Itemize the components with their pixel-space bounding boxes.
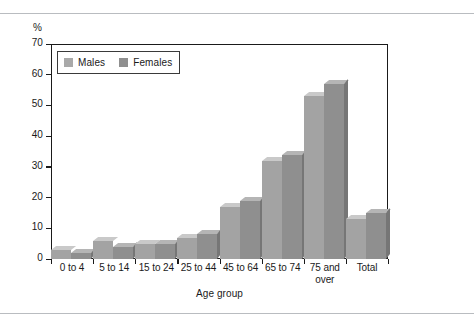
y-axis-tick-label: 20 xyxy=(13,191,43,202)
y-axis-tick-label: 10 xyxy=(13,221,43,232)
bar-body xyxy=(93,241,113,259)
bar-females xyxy=(282,155,302,259)
bar-males xyxy=(304,96,324,259)
y-axis-tick-label: 50 xyxy=(13,98,43,109)
bar-top-face xyxy=(93,237,118,241)
y-axis-unit-label: % xyxy=(33,22,42,33)
bar-males xyxy=(51,250,71,259)
x-axis-title: Age group xyxy=(51,288,388,299)
legend-swatch-males-icon xyxy=(64,58,73,67)
bar-males xyxy=(177,238,197,260)
bars-area xyxy=(51,44,388,259)
y-axis-tick-label: 40 xyxy=(13,129,43,140)
bar-group xyxy=(220,44,260,259)
legend-item-males: Males xyxy=(64,57,105,68)
y-axis-tick-label: 60 xyxy=(13,68,43,79)
bar-body xyxy=(240,201,260,259)
bar-males xyxy=(262,161,282,259)
bar-group xyxy=(262,44,302,259)
bar-females xyxy=(240,201,260,259)
chart-legend: Males Females xyxy=(57,51,180,74)
y-axis-tick-label: 0 xyxy=(13,252,43,263)
bar-males xyxy=(93,241,113,259)
legend-swatch-females-icon xyxy=(119,58,128,67)
legend-label-males: Males xyxy=(78,57,105,68)
bar-body xyxy=(220,207,240,259)
bar-body xyxy=(135,244,155,259)
bar-body xyxy=(71,253,91,259)
bar-females xyxy=(155,244,175,259)
bar-body xyxy=(304,96,324,259)
bar-body xyxy=(197,234,217,259)
bar-body xyxy=(366,213,386,259)
bar-body xyxy=(346,219,366,259)
bar-females xyxy=(71,253,91,259)
bar-group xyxy=(177,44,217,259)
y-axis-tick-label: 70 xyxy=(13,37,43,48)
bar-body xyxy=(282,155,302,259)
bar-body xyxy=(177,238,197,260)
bar-top-face xyxy=(51,246,76,250)
bar-body xyxy=(262,161,282,259)
bar-group xyxy=(93,44,133,259)
bar-females xyxy=(324,84,344,259)
bar-body xyxy=(51,250,71,259)
bar-males xyxy=(220,207,240,259)
bar-females xyxy=(113,247,133,259)
bar-body xyxy=(155,244,175,259)
bar-females xyxy=(197,234,217,259)
bar-males xyxy=(135,244,155,259)
y-axis-tick-label: 30 xyxy=(13,160,43,171)
legend-item-females: Females xyxy=(119,57,172,68)
legend-label-females: Females xyxy=(133,57,172,68)
bar-females xyxy=(366,213,386,259)
bar-body xyxy=(113,247,133,259)
bar-group xyxy=(51,44,91,259)
bar-chart-figure: % 010203040506070 0 to 45 to 1415 to 242… xyxy=(0,0,474,327)
bar-body xyxy=(324,84,344,259)
x-axis-tick-label: Total xyxy=(340,262,394,274)
bar-group xyxy=(346,44,386,259)
bar-males xyxy=(346,219,366,259)
bar-group xyxy=(135,44,175,259)
bar-side-face xyxy=(386,208,390,259)
bar-group xyxy=(304,44,344,259)
